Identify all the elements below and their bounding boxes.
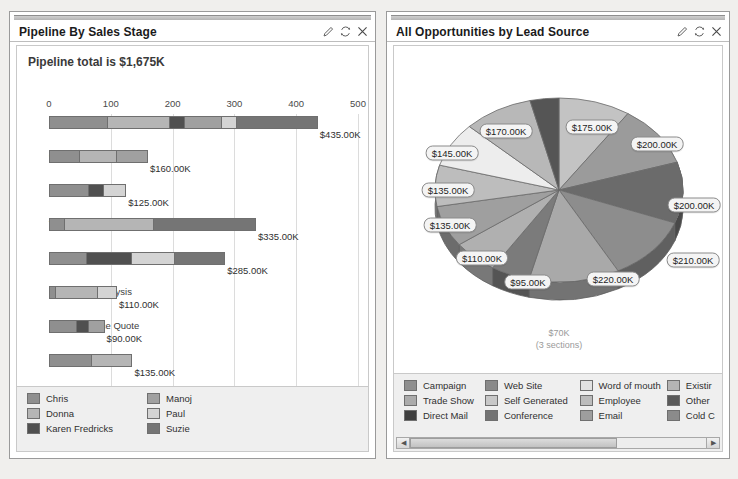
scroll-right-arrow-icon[interactable]: ▶ [706,438,719,448]
bar-group: Id. Decision Makers$285.00K [17,252,368,286]
pie-slice-label: $220.00K [587,272,640,287]
bar-group: Value Proposition$335.00K [17,218,368,252]
bar-group: Prospecting$435.00K [17,116,368,150]
bar-segment[interactable] [92,355,131,366]
axis-tick-label: 400 [288,98,304,109]
legend-item[interactable]: Trade Show [404,395,485,406]
close-icon[interactable] [709,25,723,39]
edit-pencil-icon[interactable] [675,25,689,39]
bar-segment[interactable] [50,321,77,332]
legend-swatch [27,423,40,434]
page-title: Pipeline By Sales Stage [19,25,157,39]
stacked-bar[interactable] [49,286,117,299]
legend-item[interactable]: Cold C [667,410,722,421]
stacked-bar[interactable] [49,184,126,197]
legend-item[interactable]: Manoj [147,393,267,404]
bar-value-label: $135.00K [134,366,175,379]
scroll-left-arrow-icon[interactable]: ◀ [397,438,410,448]
bar-segment[interactable] [132,253,175,264]
bar-segment[interactable] [65,219,154,230]
stacked-bar[interactable] [49,252,225,265]
bar-segment[interactable] [89,185,104,196]
pie-slice-label: $95.00K [504,275,551,290]
bar-chart-plot: 0100200300400500Prospecting$435.00KQuali… [17,98,368,393]
bar-segment[interactable] [117,151,147,162]
pie-slice-label: $210.00K [667,253,720,268]
bar-segment[interactable] [50,355,92,366]
refresh-icon[interactable] [692,25,706,39]
legend-label: Karen Fredricks [46,423,113,434]
legend-item[interactable]: Direct Mail [404,410,485,421]
leadsource-horizontal-scrollbar[interactable]: ◀ ▶ [396,437,720,449]
legend-item[interactable]: Conference [485,410,580,421]
bar-segment[interactable] [104,185,125,196]
legend-item[interactable]: Campaign [404,380,485,391]
legend-item[interactable]: Email [580,410,667,421]
axis-tick-label: 500 [350,98,366,109]
bar-segment[interactable] [98,287,116,298]
stacked-bar[interactable] [49,218,256,231]
stacked-bar[interactable] [49,320,105,333]
legend-label: Existir [686,380,712,391]
axis-tick-label: 200 [165,98,181,109]
legend-label: Employee [599,395,641,406]
stacked-bar[interactable] [49,354,132,367]
bar-segment[interactable] [175,253,224,264]
bar-segment[interactable] [80,151,116,162]
legend-item[interactable]: Existir [667,380,722,391]
bar-segment[interactable] [108,117,169,128]
legend-swatch [667,410,680,421]
legend-item[interactable]: Other [667,395,722,406]
bar-segment[interactable] [89,321,104,332]
legend-swatch [667,380,680,391]
scroll-thumb[interactable] [410,438,617,448]
legend-item[interactable]: Karen Fredricks [27,423,147,434]
legend-swatch [580,380,593,391]
legend-swatch [485,410,498,421]
bar-segment[interactable] [87,253,133,264]
bar-segment[interactable] [50,151,80,162]
stacked-bar[interactable] [49,150,148,163]
legend-swatch [147,423,160,434]
bar-segment[interactable] [222,117,237,128]
panel-all-opportunities-by-lead-source: All Opportunities by Lead Source [386,11,730,459]
close-icon[interactable] [355,25,369,39]
legend-swatch [147,408,160,419]
bar-segment[interactable] [50,253,87,264]
legend-item[interactable]: Self Generated [485,395,580,406]
page-title: All Opportunities by Lead Source [396,25,589,39]
legend-label: Conference [504,410,553,421]
legend-item[interactable]: Employee [580,395,667,406]
bar-segment[interactable] [50,219,65,230]
legend-label: Self Generated [504,395,568,406]
legend-item[interactable]: Suzie [147,423,267,434]
pie-slice-label: $200.00K [631,137,684,152]
legend-swatch [667,395,680,406]
legend-item[interactable]: Web Site [485,380,580,391]
legend-label: Trade Show [423,395,474,406]
bar-segment[interactable] [185,117,222,128]
legend-column: ManojPaulSuzie [147,393,267,434]
bar-segment[interactable] [237,117,317,128]
legend-item[interactable]: Chris [27,393,147,404]
legend-swatch [580,410,593,421]
bar-segment[interactable] [154,219,255,230]
bar-value-label: $110.00K [119,298,159,311]
edit-pencil-icon[interactable] [321,25,335,39]
bar-value-label: $285.00K [227,264,268,277]
legend-item[interactable]: Donna [27,408,147,419]
bar-segment[interactable] [170,117,185,128]
legend-swatch [147,393,160,404]
legend-swatch [485,395,498,406]
refresh-icon[interactable] [338,25,352,39]
bar-segment[interactable] [50,185,89,196]
bar-segment[interactable] [56,287,98,298]
bar-value-label: $125.00K [128,196,169,209]
stacked-bar[interactable] [49,116,318,129]
bar-segment[interactable] [77,321,89,332]
legend-item[interactable]: Paul [147,408,267,419]
legend-item[interactable]: Word of mouth [580,380,667,391]
bar-group: Qualification$160.00K [17,150,368,184]
bar-segment[interactable] [50,117,108,128]
scroll-track[interactable] [410,438,706,448]
